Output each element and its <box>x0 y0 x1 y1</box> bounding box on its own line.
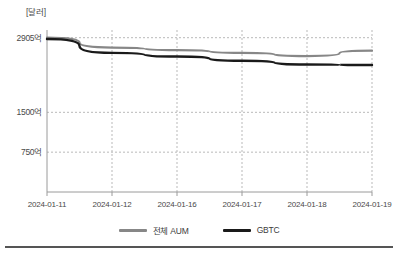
legend-item-total-aum[interactable]: 전체 AUM <box>119 224 189 236</box>
x-axis-tick-label: 2024-01-16 <box>158 200 198 209</box>
x-axis-tick-label: 2024-01-17 <box>223 200 263 209</box>
legend-label-total-aum: 전체 AUM <box>153 224 189 236</box>
chart-container: [달러] 2905억1500억750억 2024-01-112024-01-12… <box>0 0 398 254</box>
legend-item-gbtc[interactable]: GBTC <box>223 225 280 235</box>
x-axis-tick-label: 2024-01-12 <box>93 200 133 209</box>
line-chart-svg: 2905억1500억750억 2024-01-112024-01-122024-… <box>0 0 398 254</box>
x-axis-ticks-group: 2024-01-112024-01-122024-01-162024-01-17… <box>28 192 392 209</box>
footer-divider <box>5 246 393 248</box>
y-axis-tick-label: 750억 <box>21 147 42 157</box>
x-axis-tick-label: 2024-01-19 <box>353 200 393 209</box>
y-axis-tick-label: 1500억 <box>17 107 42 117</box>
legend-label-gbtc: GBTC <box>257 225 280 235</box>
x-axis-tick-label: 2024-01-18 <box>288 200 328 209</box>
y-axis-tick-label: 2905억 <box>17 33 42 43</box>
x-axis-tick-label: 2024-01-11 <box>28 200 67 209</box>
legend-swatch-gbtc <box>223 229 251 232</box>
series-lines-group <box>47 38 372 65</box>
y-axis-ticks-group: 2905억1500억750억 <box>17 33 42 157</box>
gridlines-group <box>47 30 372 192</box>
legend-swatch-total-aum <box>119 229 147 232</box>
chart-legend: 전체 AUM GBTC <box>0 224 398 236</box>
